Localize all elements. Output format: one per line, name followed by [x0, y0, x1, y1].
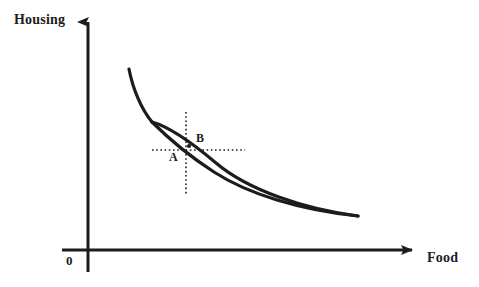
- indifference-curve-through-b: [152, 122, 358, 216]
- plot-canvas: [0, 0, 479, 287]
- point-b-label: B: [196, 131, 204, 146]
- housing-axis-label: Housing: [14, 12, 65, 28]
- point-b-marker: [187, 144, 191, 148]
- origin-label: 0: [66, 253, 73, 269]
- food-axis-label: Food: [427, 250, 458, 266]
- point-a-label: A: [169, 150, 178, 165]
- indifference-curve-figure: Housing Food 0 A B: [0, 0, 479, 287]
- indifference-curve-shared-upper: [129, 69, 152, 122]
